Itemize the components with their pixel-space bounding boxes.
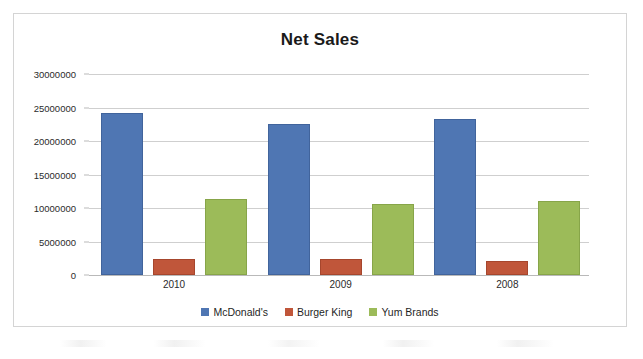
y-axis-tick-label: 15000000 <box>34 169 76 180</box>
x-axis: 201020092008 <box>89 279 589 299</box>
y-axis-tick-label: 25000000 <box>34 102 76 113</box>
bar-burger-king-2009 <box>320 259 362 275</box>
legend-swatch-icon <box>369 308 377 316</box>
gridline <box>89 208 589 209</box>
scan-artifact <box>60 340 580 347</box>
legend-swatch-icon <box>285 308 293 316</box>
gridline <box>89 74 589 75</box>
bar-mcdonald-s-2010 <box>101 113 143 275</box>
y-axis-tick-label: 20000000 <box>34 136 76 147</box>
chart-frame: Net Sales 050000001000000015000000200000… <box>13 13 627 327</box>
gridline <box>89 141 589 142</box>
gridline <box>89 242 589 243</box>
x-axis-tick-label: 2008 <box>496 279 518 290</box>
bar-burger-king-2010 <box>153 259 195 275</box>
y-axis-tick-label: 0 <box>71 270 76 281</box>
legend-label: McDonald's <box>213 306 268 318</box>
chart-legend: McDonald'sBurger KingYum Brands <box>14 306 626 318</box>
gridline <box>89 108 589 109</box>
bar-yum-brands-2008 <box>538 201 580 275</box>
legend-item: McDonald's <box>201 306 268 318</box>
legend-label: Yum Brands <box>381 306 438 318</box>
legend-swatch-icon <box>201 308 209 316</box>
gridline <box>89 175 589 176</box>
bar-burger-king-2008 <box>486 261 528 275</box>
x-axis-tick-label: 2010 <box>163 279 185 290</box>
bar-yum-brands-2010 <box>205 199 247 275</box>
bar-mcdonald-s-2009 <box>268 124 310 275</box>
x-axis-tick-label: 2009 <box>330 279 352 290</box>
legend-item: Burger King <box>285 306 352 318</box>
y-axis-tick-label: 30000000 <box>34 69 76 80</box>
bar-mcdonald-s-2008 <box>434 119 476 275</box>
y-axis-tick-label: 5000000 <box>39 236 76 247</box>
legend-label: Burger King <box>297 306 352 318</box>
plot-area <box>89 74 589 275</box>
bar-yum-brands-2009 <box>372 204 414 275</box>
legend-item: Yum Brands <box>369 306 438 318</box>
y-axis-tick-label: 10000000 <box>34 203 76 214</box>
axis-baseline <box>89 275 589 276</box>
chart-title: Net Sales <box>14 30 626 50</box>
y-axis: 0500000010000000150000002000000025000000… <box>14 74 84 275</box>
